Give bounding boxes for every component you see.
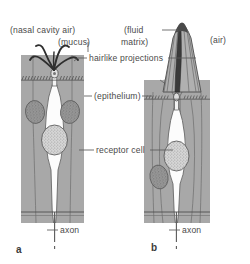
receptor-nucleus-a [42, 125, 68, 155]
label-nasal-cavity-air: (nasal cavity air) [10, 25, 75, 35]
label-epithelium: (epithelium) [94, 91, 141, 101]
label-fluid-matrix-line1: (fluid [124, 25, 144, 35]
dendrite-knob-b [174, 93, 180, 101]
label-axon-a: axon [60, 225, 79, 235]
panel-label-b: b [151, 242, 157, 253]
knob-dot-a [53, 72, 56, 75]
label-hairlike-projections: hairlike projections [89, 53, 163, 63]
label-receptor-cell: receptor cell [96, 145, 145, 155]
receptor-nucleus-b [164, 141, 189, 171]
label-mucus: (mucus) [58, 37, 90, 47]
label-air: (air) [210, 35, 226, 45]
label-axon-b: axon [182, 225, 201, 235]
panel-label-a: a [16, 244, 22, 255]
panel-a-vertebrate [21, 45, 84, 253]
label-fluid-matrix-line2: matrix) [121, 37, 148, 47]
